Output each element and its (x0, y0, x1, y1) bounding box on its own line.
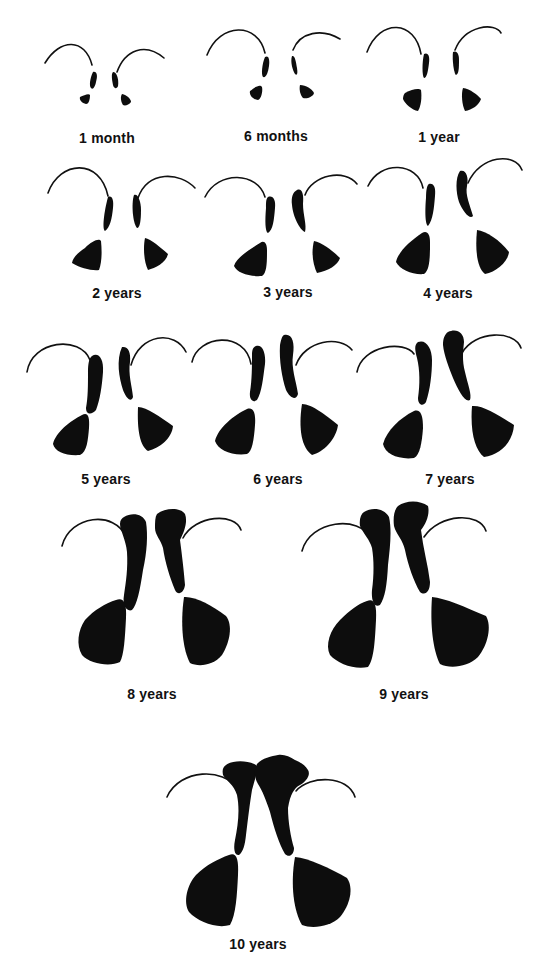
sinus-drawing-10-years (0, 0, 547, 979)
sinus-development-figure: 1 month 6 months 1 year (0, 0, 547, 979)
panel-10-years: 10 years (0, 0, 547, 979)
panel-label: 10 years (229, 936, 287, 952)
